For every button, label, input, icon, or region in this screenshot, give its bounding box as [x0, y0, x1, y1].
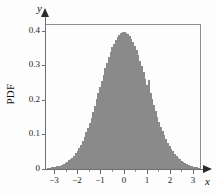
x-axis-tick — [170, 170, 171, 174]
y-axis-tick — [42, 169, 46, 170]
x-axis-tick-label: −3 — [42, 175, 66, 185]
x-axis-tick-label: 0 — [112, 175, 136, 185]
figure-normal-pdf-histogram: 00.10.20.30.4 −3−2−10123 y x PDF — [0, 0, 217, 195]
y-axis-tick-label: 0.4 — [0, 26, 40, 35]
y-axis-arrow-icon — [41, 8, 49, 17]
x-axis-arrow-icon — [203, 165, 212, 173]
x-axis-minor-tick — [112, 170, 113, 172]
y-axis-tick-label: 0.3 — [0, 60, 40, 69]
x-axis-tick — [147, 170, 148, 174]
x-axis-tick-label: −1 — [88, 175, 112, 185]
y-axis-tick — [42, 134, 46, 135]
y-axis-tick — [42, 65, 46, 66]
x-axis-tick — [193, 170, 194, 174]
y-axis-tick — [42, 31, 46, 32]
x-axis-tick-label: −2 — [65, 175, 89, 185]
x-axis-minor-tick — [89, 170, 90, 172]
x-axis-tick — [77, 170, 78, 174]
x-axis-tick — [124, 170, 125, 174]
x-axis-tick — [100, 170, 101, 174]
y-axis-symbol-label: y — [37, 2, 42, 14]
x-axis-minor-tick — [66, 170, 67, 172]
x-axis-minor-tick — [158, 170, 159, 172]
x-axis-tick-label: 1 — [135, 175, 159, 185]
x-axis-minor-tick — [135, 170, 136, 172]
y-axis-tick-label: 0 — [0, 164, 40, 173]
x-axis-symbol-label: x — [205, 175, 210, 187]
x-axis-tick — [54, 170, 55, 174]
y-axis-title: PDF — [4, 71, 16, 117]
x-axis-minor-tick — [181, 170, 182, 172]
y-axis-tick — [42, 100, 46, 101]
histogram-bars — [46, 24, 201, 169]
y-axis-line — [45, 16, 46, 169]
y-axis-tick-label: 0.1 — [0, 129, 40, 138]
x-axis-tick-label: 2 — [158, 175, 182, 185]
x-axis-tick-label: 3 — [181, 175, 205, 185]
